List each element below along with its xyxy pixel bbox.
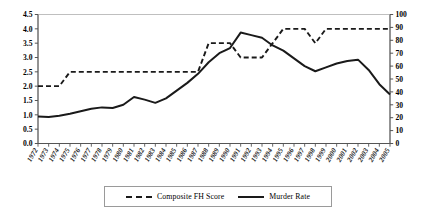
svg-text:3.0: 3.0 [23, 53, 33, 62]
chart-container: 0.00.51.01.52.02.53.03.54.04.5 010203040… [0, 0, 433, 216]
svg-text:20: 20 [396, 113, 404, 122]
left-axis-ticks: 0.00.51.01.52.02.53.03.54.04.5 [23, 10, 38, 148]
legend-label-composite-fh-score: Composite FH Score [157, 192, 224, 201]
svg-text:1.0: 1.0 [23, 111, 33, 120]
svg-text:0.5: 0.5 [23, 125, 33, 134]
svg-text:10: 10 [396, 126, 404, 135]
svg-text:80: 80 [396, 36, 404, 45]
series-line-murder-rate [38, 33, 390, 118]
svg-text:2005: 2005 [377, 147, 392, 165]
x-axis-tick-labels: 1972197319741975197619771978197919801981… [26, 147, 392, 165]
svg-text:1.5: 1.5 [23, 96, 33, 105]
svg-text:4.0: 4.0 [23, 25, 33, 34]
svg-text:2.5: 2.5 [23, 68, 33, 77]
svg-text:4.5: 4.5 [23, 10, 33, 19]
svg-text:90: 90 [396, 23, 404, 32]
svg-text:0.0: 0.0 [23, 139, 33, 148]
svg-text:3.5: 3.5 [23, 39, 33, 48]
axes-group [38, 15, 390, 144]
solid-line-swatch-icon [238, 196, 264, 198]
legend-label-murder-rate: Murder Rate [269, 192, 310, 201]
chart-svg: 0.00.51.01.52.02.53.03.54.04.5 010203040… [0, 0, 433, 216]
svg-text:2.0: 2.0 [23, 82, 33, 91]
svg-text:100: 100 [396, 10, 408, 19]
svg-text:40: 40 [396, 88, 404, 97]
svg-text:30: 30 [396, 101, 404, 110]
legend-item-murder-rate: Murder Rate [238, 192, 310, 201]
chart-legend: Composite FH Score Murder Rate [104, 186, 332, 207]
right-axis-ticks: 0102030405060708090100 [390, 10, 407, 148]
svg-text:70: 70 [396, 49, 404, 58]
svg-text:0: 0 [396, 139, 400, 148]
svg-text:50: 50 [396, 75, 404, 84]
svg-text:60: 60 [396, 62, 404, 71]
legend-item-composite-fh-score: Composite FH Score [126, 192, 224, 201]
series-group [38, 29, 390, 117]
dashed-line-swatch-icon [126, 196, 152, 198]
